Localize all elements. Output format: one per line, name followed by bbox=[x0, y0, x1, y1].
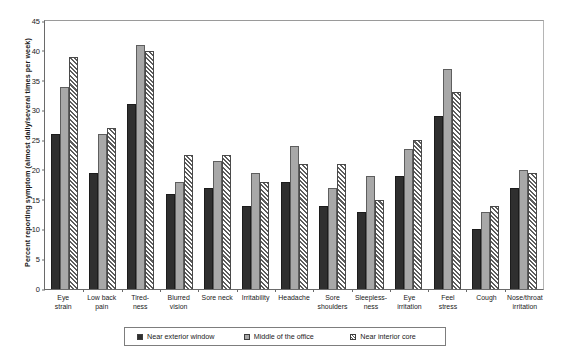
bar-group bbox=[237, 21, 275, 289]
bar-group bbox=[275, 21, 313, 289]
bar-chart: Percent reporting symptom (almost daily/… bbox=[0, 0, 562, 357]
bar bbox=[404, 149, 413, 289]
legend-item[interactable]: Near interior core bbox=[338, 332, 445, 341]
chart-legend: Near exterior windowMiddle of the office… bbox=[124, 327, 446, 346]
bar bbox=[184, 155, 193, 289]
legend-swatch-icon bbox=[137, 334, 143, 340]
bar bbox=[366, 176, 375, 289]
bar-group bbox=[505, 21, 543, 289]
bar-group bbox=[428, 21, 466, 289]
x-axis-tick-label: Cough bbox=[467, 294, 505, 311]
bar-group bbox=[45, 21, 83, 289]
y-axis-tick-label: 30 bbox=[32, 106, 45, 115]
bar bbox=[251, 173, 260, 289]
bar bbox=[375, 200, 384, 289]
x-axis-tick-label: Irritability bbox=[236, 294, 274, 311]
x-axis-tick-label: Eye strain bbox=[44, 294, 82, 311]
legend-label: Near interior core bbox=[360, 332, 416, 341]
x-axis-tick-label: Sore shoulders bbox=[313, 294, 351, 311]
bar bbox=[528, 173, 537, 289]
legend-swatch-icon bbox=[350, 334, 356, 340]
y-axis-tick-label: 10 bbox=[32, 225, 45, 234]
bar bbox=[452, 92, 461, 289]
x-axis-tick-label: Sleepless- ness bbox=[352, 294, 390, 311]
y-axis-title: Percent reporting symptom (almost daily/… bbox=[23, 8, 32, 298]
x-axis-tick-label: Headache bbox=[275, 294, 313, 311]
bar bbox=[204, 188, 213, 289]
bar-group bbox=[352, 21, 390, 289]
bar bbox=[51, 134, 60, 289]
bar bbox=[490, 206, 499, 289]
bar bbox=[127, 104, 136, 289]
bar bbox=[413, 140, 422, 289]
legend-label: Near exterior window bbox=[147, 332, 215, 341]
bar-group bbox=[313, 21, 351, 289]
bar bbox=[242, 206, 251, 289]
bar bbox=[166, 194, 175, 289]
bar-group bbox=[83, 21, 121, 289]
y-axis-tick-label: 0 bbox=[36, 285, 45, 294]
bar bbox=[319, 206, 328, 289]
bar-group bbox=[122, 21, 160, 289]
bar bbox=[281, 182, 290, 289]
y-axis-tick-label: 5 bbox=[36, 255, 45, 264]
bar bbox=[60, 87, 69, 289]
y-axis-tick-label: 35 bbox=[32, 76, 45, 85]
bar bbox=[222, 155, 231, 289]
legend-item[interactable]: Near exterior window bbox=[125, 332, 232, 341]
x-axis-tick-label: Feel stress bbox=[429, 294, 467, 311]
x-axis-tick-label: Low back pain bbox=[82, 294, 120, 311]
bar bbox=[443, 69, 452, 289]
bar bbox=[175, 182, 184, 289]
x-axis-tick-label: Sore neck bbox=[198, 294, 236, 311]
y-axis-tick-label: 45 bbox=[32, 17, 45, 26]
bar bbox=[107, 128, 116, 289]
x-axis-tick-label: Nose/throat irritation bbox=[506, 294, 544, 311]
y-axis-tick-label: 15 bbox=[32, 195, 45, 204]
bar bbox=[136, 45, 145, 289]
bar-group bbox=[160, 21, 198, 289]
bar bbox=[357, 212, 366, 289]
y-axis-tick-label: 40 bbox=[32, 46, 45, 55]
legend-label: Middle of the office bbox=[254, 332, 314, 341]
x-axis-tick-label: Blurred vision bbox=[159, 294, 197, 311]
y-axis-tick-label: 25 bbox=[32, 136, 45, 145]
x-axis-labels: Eye strainLow back painTired- nessBlurre… bbox=[44, 294, 544, 311]
bar-groups bbox=[45, 21, 543, 289]
bar bbox=[472, 229, 481, 289]
y-axis-tick-label: 20 bbox=[32, 165, 45, 174]
bar-group bbox=[390, 21, 428, 289]
bar bbox=[519, 170, 528, 289]
bar bbox=[98, 134, 107, 289]
bar bbox=[481, 212, 490, 289]
bar-group bbox=[198, 21, 236, 289]
bar bbox=[299, 164, 308, 289]
x-axis-tick-label: Tired- ness bbox=[121, 294, 159, 311]
bar bbox=[337, 164, 346, 289]
bar bbox=[395, 176, 404, 289]
bar bbox=[145, 51, 154, 289]
bar bbox=[89, 173, 98, 289]
bar bbox=[328, 188, 337, 289]
bar-group bbox=[466, 21, 504, 289]
bar bbox=[434, 116, 443, 289]
legend-item[interactable]: Middle of the office bbox=[232, 332, 339, 341]
bar bbox=[260, 182, 269, 289]
bar bbox=[69, 57, 78, 289]
plot-area: 051015202530354045 bbox=[44, 20, 544, 290]
bar bbox=[510, 188, 519, 289]
bar bbox=[213, 161, 222, 289]
x-axis-tick-label: Eye irritation bbox=[390, 294, 428, 311]
legend-swatch-icon bbox=[244, 334, 250, 340]
bar bbox=[290, 146, 299, 289]
